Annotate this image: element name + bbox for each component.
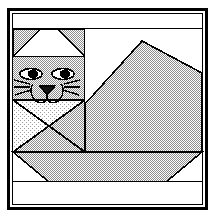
quilt-block-illustration bbox=[0, 0, 215, 218]
patch-top-sashing bbox=[13, 14, 202, 29]
left-eye-pupil bbox=[28, 69, 39, 78]
right-eye-pupil bbox=[60, 69, 71, 78]
cat-quilt-block-svg bbox=[0, 0, 215, 218]
patch-bottom-sashing bbox=[13, 182, 202, 204]
